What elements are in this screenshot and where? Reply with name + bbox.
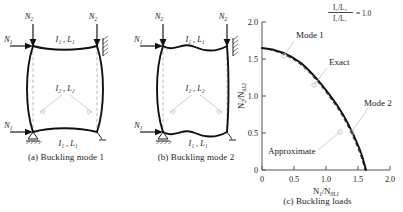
load-arrow-n1-top	[140, 43, 163, 49]
beam-bottom	[163, 131, 227, 136]
leader-lines-columns	[40, 95, 92, 114]
y-axis-label: N2/N0L2	[236, 83, 247, 109]
label-mode-2: Mode 2	[364, 98, 392, 108]
label-load-n2-right: N2	[88, 11, 98, 22]
label-approximate: Approximate	[268, 146, 316, 156]
y-tick-label-3: 1.5	[248, 55, 258, 64]
y-axis-ticks	[262, 22, 266, 170]
label-load-n2-left: N2	[154, 11, 164, 22]
label-beam-bottom: I₁ , L₁	[187, 139, 207, 148]
label-beam-top: I₁ , L₁	[184, 35, 204, 44]
leader-mode2	[350, 108, 368, 134]
support-roller-top-right	[103, 36, 108, 56]
ratio-numerator: I₂/L₂	[333, 3, 348, 12]
panel-buckling-loads-chart: 0 0.5 1.0 1.5 2.0 0 0.5 1.0 1.5 2.0 N1/N…	[232, 0, 403, 212]
support-roller-bottom-right	[97, 132, 106, 140]
label-columns: I₂ , L₂	[184, 84, 204, 93]
y-tick-label-4: 2.0	[248, 18, 258, 27]
column-right	[227, 46, 229, 132]
caption-panel-a: (a) Buckling mode 1	[0, 152, 132, 162]
x-tick-label-1: 0.5	[289, 175, 299, 184]
x-tick-label-4: 2.0	[385, 175, 395, 184]
load-arrow-n2-right	[94, 24, 101, 47]
column-left	[157, 46, 163, 132]
beam-top	[163, 45, 227, 50]
load-arrow-n2-left	[30, 24, 37, 47]
label-load-n1-bottom: N1	[133, 120, 143, 131]
caption-panel-c: (c) Buckling loads	[232, 196, 403, 206]
load-arrow-n1-top	[10, 43, 33, 49]
x-axis-ticks	[262, 166, 390, 170]
x-tick-label-3: 1.5	[353, 175, 363, 184]
label-mode-1: Mode 1	[296, 30, 324, 40]
leader-lines-columns	[170, 95, 222, 114]
y-tick-label-2: 1.0	[248, 92, 258, 101]
frame-diagram-mode-1: N2 N2 N1 N1 I₁ , L₁ I₁ , L₁ I₂ , L₂	[0, 0, 132, 160]
figure-buckling-loads: N2 N2 N1 N1 I₁ , L₁ I₁ , L₁ I₂ , L₂ (a) …	[0, 0, 403, 212]
load-arrow-n2-left	[160, 24, 167, 47]
leader-approximate	[318, 130, 342, 150]
load-arrow-n2-right	[224, 24, 231, 47]
ratio-annotation: I₂/L₂ I₁/L₁ = 1.0	[328, 3, 372, 23]
ratio-equals-value: = 1.0	[356, 9, 372, 18]
column-left	[27, 46, 33, 132]
column-right	[97, 46, 103, 132]
label-load-n1-top: N1	[133, 34, 143, 45]
beam-bottom	[33, 128, 97, 132]
label-columns: I₂ , L₂	[54, 84, 74, 93]
x-tick-label-0: 0	[260, 175, 264, 184]
load-arrow-n1-bottom	[140, 129, 163, 135]
y-tick-label-1: 0.5	[248, 129, 258, 138]
label-load-n2-right: N2	[218, 11, 228, 22]
beam-top	[33, 46, 97, 50]
y-tick-label-0: 0	[254, 166, 258, 175]
load-arrow-n1-bottom	[10, 129, 33, 135]
label-exact: Exact	[329, 57, 350, 67]
label-load-n1-top: N1	[3, 34, 13, 45]
label-load-n2-left: N2	[24, 11, 34, 22]
ratio-denominator: I₁/L₁	[333, 14, 348, 23]
label-beam-top: I₁ , L₁	[54, 35, 74, 44]
label-load-n1-bottom: N1	[3, 120, 13, 131]
panel-buckling-mode-1: N2 N2 N1 N1 I₁ , L₁ I₁ , L₁ I₂ , L₂ (a) …	[0, 0, 132, 212]
interaction-curve-chart: 0 0.5 1.0 1.5 2.0 0 0.5 1.0 1.5 2.0 N1/N…	[232, 0, 403, 196]
label-beam-bottom: I₁ , L₁	[57, 139, 77, 148]
x-tick-label-2: 1.0	[321, 175, 331, 184]
